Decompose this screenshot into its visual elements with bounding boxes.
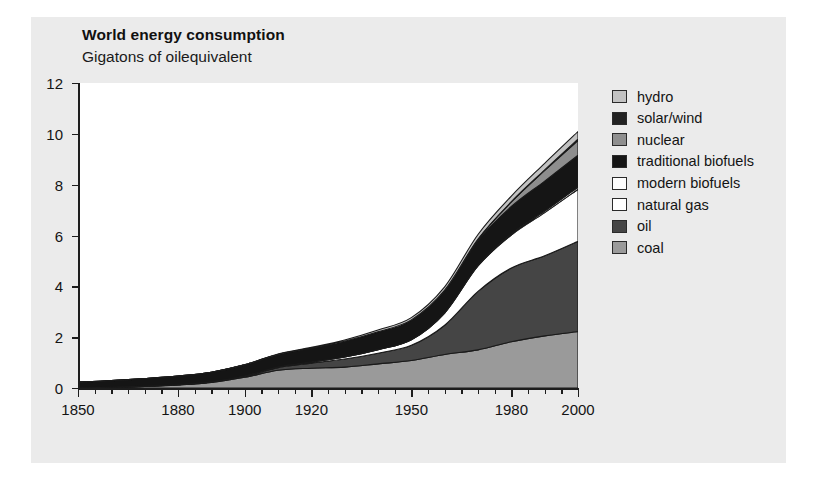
x-tick (278, 389, 279, 394)
x-tick (478, 389, 479, 394)
x-tick (211, 389, 212, 394)
x-tick-label: 1920 (295, 401, 328, 418)
legend-swatch-icon (612, 90, 627, 103)
chart-title: World energy consumption (82, 25, 502, 45)
x-tick-minor (261, 389, 262, 394)
x-tick-minor (528, 389, 529, 394)
y-tick-label: 8 (55, 176, 63, 193)
plot-wrap: 024681012 1850188019001920195019802000 (78, 83, 578, 388)
legend-item-modern-biofuels[interactable]: modern biofuels (612, 172, 754, 194)
x-tick (111, 389, 112, 394)
legend-item-traditional-biofuels[interactable]: traditional biofuels (612, 151, 754, 173)
x-tick (378, 389, 379, 394)
legend-item-label: solar/wind (637, 111, 702, 126)
x-tick (578, 389, 579, 397)
x-tick (511, 389, 512, 397)
legend-swatch-icon (612, 198, 627, 211)
title-block: World energy consumption Gigatons of oil… (82, 25, 502, 67)
x-tick-minor (495, 389, 496, 394)
legend-swatch-icon (612, 177, 627, 190)
legend-swatch-icon (612, 133, 627, 146)
legend-item-label: hydro (637, 90, 673, 105)
chart-legend: hydrosolar/windnucleartraditional biofue… (612, 86, 754, 259)
x-tick-label: 1900 (228, 401, 261, 418)
x-tick-label: 1980 (495, 401, 528, 418)
y-tick-label: 2 (55, 329, 63, 346)
legend-item-label: natural gas (637, 198, 709, 213)
x-tick (445, 389, 446, 394)
x-tick-minor (95, 389, 96, 394)
x-tick (245, 389, 246, 397)
x-tick-label: 1950 (395, 401, 428, 418)
x-tick (411, 389, 412, 397)
figure-root: World energy consumption Gigatons of oil… (0, 0, 817, 480)
y-tick-label: 6 (55, 227, 63, 244)
plot-area (78, 83, 578, 388)
x-tick (311, 389, 312, 397)
y-tick: 8 (72, 185, 78, 186)
legend-swatch-icon (612, 241, 627, 254)
legend-item-coal[interactable]: coal (612, 237, 754, 259)
legend-item-oil[interactable]: oil (612, 216, 754, 238)
legend-item-hydro[interactable]: hydro (612, 86, 754, 108)
y-tick: 10 (72, 134, 78, 135)
x-tick-minor (328, 389, 329, 394)
x-tick-label: 1850 (61, 401, 94, 418)
y-tick: 12 (72, 83, 78, 84)
x-tick (545, 389, 546, 394)
legend-item-natural-gas[interactable]: natural gas (612, 194, 754, 216)
legend-item-label: modern biofuels (637, 176, 740, 191)
x-tick-minor (195, 389, 196, 394)
x-tick (145, 389, 146, 394)
legend-swatch-icon (612, 155, 627, 168)
x-tick-label: 1880 (161, 401, 194, 418)
x-tick (345, 389, 346, 394)
y-tick-label: 0 (55, 380, 63, 397)
legend-item-solar-wind[interactable]: solar/wind (612, 108, 754, 130)
x-tick (178, 389, 179, 397)
x-tick-minor (361, 389, 362, 394)
x-tick (78, 389, 79, 397)
legend-swatch-icon (612, 112, 627, 125)
x-tick-label: 2000 (561, 401, 594, 418)
y-tick-label: 12 (46, 75, 63, 92)
y-tick: 4 (72, 286, 78, 287)
legend-item-label: oil (637, 219, 652, 234)
x-tick-minor (128, 389, 129, 394)
legend-swatch-icon (612, 220, 627, 233)
y-tick: 6 (72, 236, 78, 237)
x-tick-minor (228, 389, 229, 394)
y-tick-label: 10 (46, 125, 63, 142)
legend-item-nuclear[interactable]: nuclear (612, 129, 754, 151)
chart-subtitle: Gigatons of oilequivalent (82, 46, 502, 67)
x-tick-minor (461, 389, 462, 394)
x-tick-minor (295, 389, 296, 394)
x-tick-minor (395, 389, 396, 394)
stacked-area-svg (78, 83, 578, 388)
x-tick-minor (161, 389, 162, 394)
x-tick-minor (561, 389, 562, 394)
legend-item-label: traditional biofuels (637, 154, 754, 169)
x-tick-minor (428, 389, 429, 394)
y-tick: 2 (72, 337, 78, 338)
legend-item-label: coal (637, 241, 664, 256)
y-tick-label: 4 (55, 278, 63, 295)
legend-item-label: nuclear (637, 133, 685, 148)
y-axis-line (78, 83, 80, 388)
